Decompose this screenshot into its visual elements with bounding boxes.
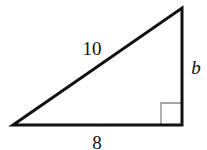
triangle-outline [13, 8, 182, 125]
right-angle-marker [161, 103, 182, 125]
vertical-leg-label: b [191, 57, 201, 78]
horizontal-leg-label: 8 [92, 132, 102, 150]
hypotenuse-label: 10 [83, 38, 102, 59]
right-triangle-diagram: 10 b 8 [0, 0, 207, 150]
